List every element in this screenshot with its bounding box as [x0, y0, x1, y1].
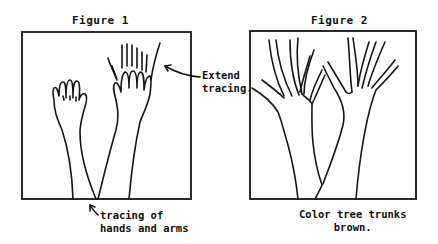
figure-1-frame [22, 32, 191, 199]
figure-2-frame [250, 31, 416, 199]
illustration-canvas [0, 0, 438, 244]
extend-arrow [165, 65, 200, 77]
left-hand-tracing [53, 80, 96, 199]
left-tree [252, 38, 325, 199]
right-tree [323, 38, 398, 199]
tracing-arrow [90, 205, 98, 215]
right-hand-tracing [98, 43, 160, 199]
